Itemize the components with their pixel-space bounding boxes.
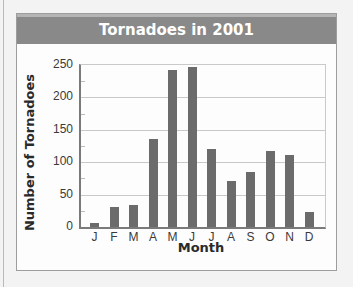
x-tick-label: A (146, 230, 160, 244)
bar (305, 212, 314, 227)
x-tick-label: D (302, 230, 316, 244)
bar (129, 205, 138, 227)
x-tick-label: J (205, 230, 219, 244)
bar (188, 67, 197, 227)
minor-tick (81, 211, 85, 212)
x-tick-label: S (244, 230, 258, 244)
gridline (81, 130, 325, 131)
minor-tick (81, 81, 85, 82)
x-tick-label: J (185, 230, 199, 244)
x-tick-label: N (283, 230, 297, 244)
x-tick-label: J (88, 230, 102, 244)
y-tick-label: 0 (43, 219, 73, 233)
x-tick-label: M (166, 230, 180, 244)
x-tick-label: M (127, 230, 141, 244)
plot-area (79, 64, 326, 229)
y-tick-label: 150 (43, 122, 73, 136)
x-tick-label: O (263, 230, 277, 244)
bar (110, 207, 119, 227)
gridline (81, 97, 325, 98)
y-tick-label: 250 (43, 57, 73, 71)
y-tick-label: 100 (43, 154, 73, 168)
x-tick-label: A (224, 230, 238, 244)
y-axis-label: Number of Tornadoes (22, 63, 37, 243)
bar (227, 181, 236, 227)
bar (246, 172, 255, 227)
page-edge-rule (3, 0, 4, 287)
y-tick-label: 200 (43, 89, 73, 103)
minor-tick (81, 178, 85, 179)
minor-tick (81, 146, 85, 147)
bar (149, 139, 158, 227)
bar (90, 223, 99, 227)
y-tick-label: 50 (43, 187, 73, 201)
chart-card: Tornadoes in 2001 Number of Tornadoes Mo… (16, 13, 337, 271)
x-tick-label: F (107, 230, 121, 244)
chart-title: Tornadoes in 2001 (17, 14, 336, 44)
bar (168, 70, 177, 227)
minor-tick (81, 114, 85, 115)
bar (285, 155, 294, 227)
bar (207, 149, 216, 227)
bar (266, 151, 275, 227)
